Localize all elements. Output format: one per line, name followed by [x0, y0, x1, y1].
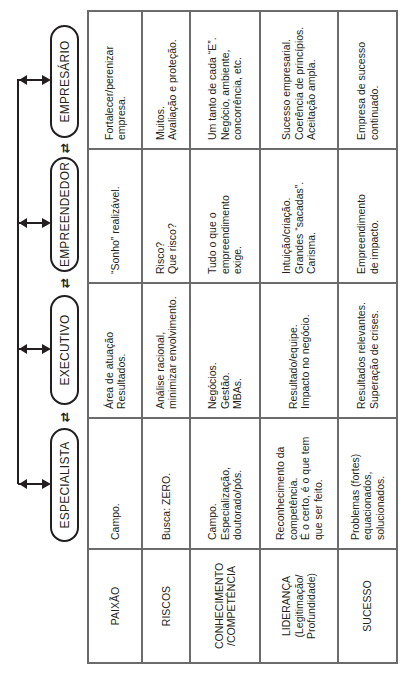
- cell-empresario-conhecimento: Um tanto de cada “E”. Negócio, ambiente,…: [191, 12, 259, 148]
- role-executivo: EXECUTIVO: [50, 295, 79, 405]
- rotated-diagram: ESPECIALISTA EXECUTIVO EMPREENDEDOR EMPR…: [0, 0, 409, 677]
- swap-arrows-icon: ⇄: [56, 139, 74, 157]
- cell-executivo-conhecimento: Negócios. Gestão. MBAs.: [191, 284, 259, 417]
- double-arrow-icon-executivo: [17, 341, 51, 357]
- criterion-lideranca: LIDERANÇA (Legitimação/ Profundidade): [261, 550, 337, 662]
- criterion-paixao: PAIXÃO: [89, 550, 141, 662]
- cell-executivo-riscos: Análise racional, minimizar envolvimento…: [143, 284, 189, 417]
- cell-empreendedor-riscos: Risco? Que risco?: [143, 150, 189, 282]
- cell-empreendedor-lideranca: Intuição/criação. Grandes “sacadas”. Car…: [261, 150, 337, 282]
- cell-empresario-sucesso: Empresa de sucesso continuado.: [339, 12, 396, 148]
- role-label: EMPREENDEDOR: [58, 162, 72, 267]
- role-label: EXECUTIVO: [58, 314, 72, 385]
- role-label: EMPRESÁRIO: [58, 41, 72, 123]
- cell-executivo-sucesso: Resultados relevantes. Superação de cris…: [339, 284, 396, 417]
- swap-arrows-icon: ⇄: [56, 408, 74, 426]
- role-empresario: EMPRESÁRIO: [50, 25, 79, 138]
- cell-empresario-lideranca: Sucesso empresarial. Coerência de princí…: [261, 12, 337, 148]
- cell-empresario-paixao: Fortalecer/perenizar empresa.: [89, 12, 141, 148]
- cell-executivo-paixao: Área de atuação Resultados.: [89, 284, 141, 417]
- cell-executivo-lideranca: Resultado/equipe. Impacto no negócio.: [261, 284, 337, 417]
- cell-especialista-lideranca: Reconhecimento da competência. É o certo…: [261, 419, 337, 548]
- role-label: ESPECIALISTA: [58, 442, 72, 529]
- criterion-conhecimento: CONHECIMENTO /COMPETÊNCIA: [191, 550, 259, 662]
- cell-especialista-riscos: Busca: ZERO.: [143, 419, 189, 548]
- cell-empreendedor-paixao: “Sonho” realizável.: [89, 150, 141, 282]
- double-arrow-icon-empreendedor: [17, 215, 51, 231]
- swap-arrows-icon: ⇄: [56, 274, 74, 292]
- cell-empreendedor-sucesso: Empreendimento de impacto.: [339, 150, 396, 282]
- role-especialista: ESPECIALISTA: [50, 428, 79, 542]
- role-empreendedor: EMPREENDEDOR: [50, 157, 79, 272]
- cell-especialista-sucesso: Problemas (fortes) equacionados, solucio…: [339, 419, 396, 548]
- cell-empreendedor-conhecimento: Tudo o que o empreendimento exige.: [191, 150, 259, 282]
- criterion-riscos: RISCOS: [143, 550, 189, 662]
- criterion-sucesso: SUCESSO: [339, 550, 396, 662]
- cell-empresario-riscos: Muitos. Avaliação e proteção.: [143, 12, 189, 148]
- double-arrow-icon-empresario: [17, 72, 51, 88]
- cell-especialista-conhecimento: Campo. Especialização, doutorado/pós.: [191, 419, 259, 548]
- double-arrow-icon-especialista-head: [17, 476, 51, 492]
- cell-especialista-paixao: Campo.: [89, 419, 141, 548]
- connector-line: [17, 79, 19, 484]
